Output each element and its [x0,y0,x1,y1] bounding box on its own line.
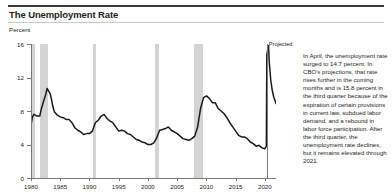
series-lines [31,44,276,178]
y-tick-mark [27,44,31,45]
header-rule [8,5,384,7]
x-tick-mark [236,178,237,181]
x-tick-mark [119,178,120,181]
x-tick-label: 2010 [191,183,221,190]
x-tick-label: 2005 [162,183,192,190]
y-tick-label: 8 [8,108,24,115]
data-line [31,55,267,149]
y-tick-label: 12 [8,74,24,81]
x-tick-label: 1995 [104,183,134,190]
projected-label: Projected [269,41,293,47]
projection-divider [267,44,268,178]
x-tick-label: 2015 [221,183,251,190]
y-tick-label: 4 [8,141,24,148]
x-tick-label: 1985 [45,183,75,190]
x-tick-mark [177,178,178,181]
x-tick-mark [60,178,61,181]
y-tick-mark [27,145,31,146]
y-tick-mark [27,78,31,79]
y-tick-label: 16 [8,41,24,48]
x-tick-mark [265,178,266,181]
y-tick-mark [27,111,31,112]
x-tick-mark [206,178,207,181]
x-tick-label: 2000 [133,183,163,190]
unemployment-rate-figure: The Unemployment Rate Percent 0481216 19… [0,0,392,196]
data-line [267,46,276,104]
x-tick-mark [148,178,149,181]
y-tick-label: 0 [8,175,24,182]
plot-area [31,44,276,178]
x-tick-mark [31,178,32,181]
figure-note: In April, the unemployment rate surged t… [303,52,389,165]
plot-canvas [31,44,276,178]
y-axis-line [31,44,32,178]
figure-title: The Unemployment Rate [9,9,118,20]
y-axis-unit-label: Percent [9,26,30,33]
title-underrule [8,22,384,23]
x-tick-label: 1990 [74,183,104,190]
x-tick-label: 1980 [16,183,46,190]
x-tick-mark [89,178,90,181]
x-tick-label: 2020 [250,183,280,190]
x-axis-line [31,178,276,179]
